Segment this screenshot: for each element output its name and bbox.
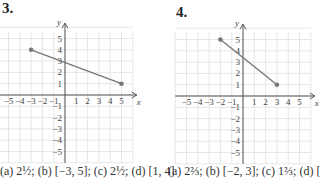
svg-text:−4: −4 xyxy=(15,96,25,106)
svg-text:5: 5 xyxy=(236,35,241,45)
svg-text:−4: −4 xyxy=(230,136,240,146)
svg-text:3: 3 xyxy=(275,97,280,107)
svg-text:4: 4 xyxy=(108,96,113,106)
problem-4-answer: (a) 2⅔; (b) [−2, 3]; (c) 1⅔; (d) [ xyxy=(168,164,320,179)
svg-text:−2: −2 xyxy=(52,113,62,123)
svg-text:4: 4 xyxy=(58,45,63,55)
svg-text:1: 1 xyxy=(236,80,241,90)
svg-text:4: 4 xyxy=(286,97,291,107)
svg-text:−1: −1 xyxy=(52,101,62,111)
svg-text:−2: −2 xyxy=(38,96,48,106)
svg-text:x: x xyxy=(136,97,141,107)
svg-text:−3: −3 xyxy=(26,96,36,106)
svg-text:1: 1 xyxy=(252,97,257,107)
svg-text:−5: −5 xyxy=(182,97,192,107)
svg-text:−5: −5 xyxy=(230,148,240,158)
svg-text:2: 2 xyxy=(85,96,90,106)
svg-text:1: 1 xyxy=(74,96,79,106)
graph-4: xy−5−4−3−2−112345−5−4−3−2−112345 xyxy=(175,18,319,164)
svg-text:3: 3 xyxy=(97,96,102,106)
svg-text:y: y xyxy=(56,17,61,27)
svg-text:−2: −2 xyxy=(216,97,226,107)
svg-text:−5: −5 xyxy=(4,96,14,106)
svg-text:5: 5 xyxy=(58,34,63,44)
graph-3: xy−5−4−3−2−112345−5−4−3−2−112345 xyxy=(0,17,141,163)
svg-text:y: y xyxy=(234,18,239,28)
svg-text:1: 1 xyxy=(58,79,63,89)
svg-text:−4: −4 xyxy=(52,135,62,145)
svg-text:2: 2 xyxy=(236,68,241,78)
svg-text:2: 2 xyxy=(58,67,63,77)
svg-text:−2: −2 xyxy=(230,114,240,124)
svg-text:−5: −5 xyxy=(52,147,62,157)
svg-text:−3: −3 xyxy=(230,125,240,135)
svg-text:−4: −4 xyxy=(193,97,203,107)
svg-text:5: 5 xyxy=(119,96,124,106)
problem-3-answer: (a) 2½; (b) [−3, 5]; (c) 2½; (d) [1, 4] xyxy=(0,164,174,179)
svg-text:5: 5 xyxy=(297,97,302,107)
svg-text:−3: −3 xyxy=(204,97,214,107)
svg-text:x: x xyxy=(314,98,319,108)
graphs: xy−5−4−3−2−112345−5−4−3−2−112345 xy−5−4−… xyxy=(0,0,320,180)
svg-text:2: 2 xyxy=(263,97,268,107)
svg-text:−1: −1 xyxy=(230,102,240,112)
svg-text:3: 3 xyxy=(236,57,241,67)
svg-text:−3: −3 xyxy=(52,124,62,134)
